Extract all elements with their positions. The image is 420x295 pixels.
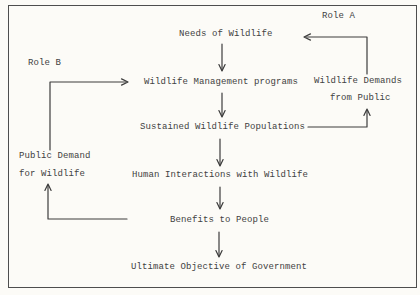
node-benefits-to-people: Benefits to People: [170, 215, 269, 225]
connector-line: [50, 82, 126, 150]
connector-demands-to-needs: [304, 34, 367, 74]
connector-public-demand-to-programs: [50, 79, 128, 150]
role-b-label: Role B: [28, 58, 61, 68]
arrow-sustained-to-human: [217, 139, 223, 166]
arrow-benefits-to-ultimate: [216, 232, 222, 257]
role-a-label: Role A: [322, 11, 355, 21]
node-wildlife-demands-line1: Wildlife Demands: [314, 76, 402, 86]
node-management-programs: Wildlife Management programs: [144, 77, 298, 87]
connector-line: [48, 186, 127, 219]
arrow-programs-to-sustained: [219, 93, 225, 117]
node-wildlife-demands-line2: from Public: [330, 93, 391, 103]
connector-sustained-to-demands: [308, 109, 370, 127]
connector-benefits-to-public-demand: [45, 184, 127, 219]
node-ultimate-objective: Ultimate Objective of Government: [131, 262, 307, 272]
connector-line: [306, 37, 367, 74]
arrow-needs-to-programs: [219, 44, 225, 71]
flow-arrows: [0, 0, 420, 295]
node-sustained-populations: Sustained Wildlife Populations: [140, 122, 305, 132]
connector-line: [308, 111, 367, 127]
scanned-diagram-page: Role A Role B Needs of Wildlife Wildlife…: [0, 0, 420, 295]
node-needs-of-wildlife: Needs of Wildlife: [179, 29, 273, 39]
arrow-human-to-benefits: [217, 187, 223, 209]
node-public-demand-line1: Public Demand: [19, 151, 91, 161]
node-human-interactions: Human Interactions with Wildlife: [132, 170, 308, 180]
node-public-demand-line2: for Wildlife: [19, 169, 85, 179]
